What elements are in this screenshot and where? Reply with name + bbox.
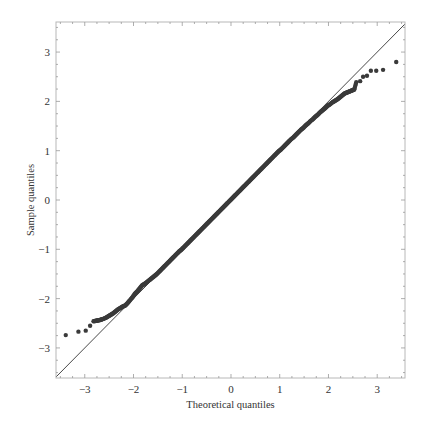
data-point xyxy=(84,328,88,332)
data-point xyxy=(365,74,369,78)
x-tick-label: 1 xyxy=(277,383,283,395)
x-tick-label: 2 xyxy=(326,383,332,395)
x-tick-label: −2 xyxy=(128,383,140,395)
y-tick-label: 2 xyxy=(45,95,51,107)
x-tick-label: 3 xyxy=(374,383,380,395)
data-points xyxy=(64,60,399,338)
y-tick-label: 1 xyxy=(45,145,51,157)
data-point xyxy=(394,60,398,64)
data-point xyxy=(369,69,373,73)
y-axis-title: Sample quantiles xyxy=(25,164,36,236)
x-tick-label: 0 xyxy=(228,383,234,395)
x-axis-tick-labels: −3−2−10123 xyxy=(79,383,381,395)
data-point xyxy=(361,75,365,79)
data-point xyxy=(64,333,68,337)
y-tick-label: 3 xyxy=(45,46,51,58)
y-tick-label: −3 xyxy=(38,342,50,354)
y-tick-label: −1 xyxy=(38,243,50,255)
data-point xyxy=(76,329,80,333)
y-tick-label: 0 xyxy=(45,194,51,206)
x-tick-label: −1 xyxy=(176,383,188,395)
data-point xyxy=(354,80,358,84)
data-point xyxy=(358,79,362,83)
qq-plot: −3−2−10123 −3−2−10123 Theoretical quanti… xyxy=(0,0,427,429)
data-point xyxy=(381,68,385,72)
x-axis-title: Theoretical quantiles xyxy=(186,399,274,410)
x-tick-label: −3 xyxy=(79,383,91,395)
y-tick-label: −2 xyxy=(38,293,50,305)
y-axis-tick-labels: −3−2−10123 xyxy=(38,46,50,354)
data-point xyxy=(374,69,378,73)
data-point xyxy=(88,324,92,328)
